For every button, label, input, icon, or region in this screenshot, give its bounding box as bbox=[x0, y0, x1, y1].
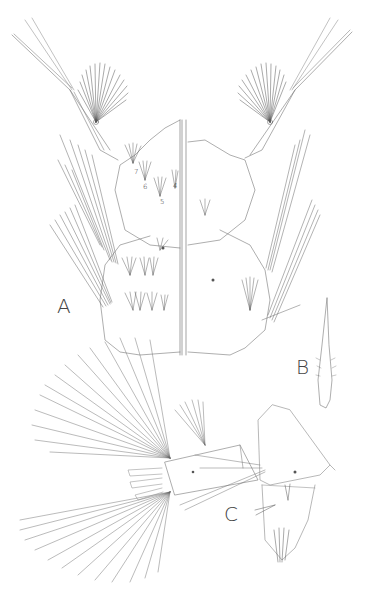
head-outline-right bbox=[188, 140, 255, 245]
midline bbox=[180, 120, 186, 355]
branched-setae bbox=[122, 143, 258, 310]
panel-c-drawing bbox=[20, 338, 335, 582]
seta-number-6: 6 bbox=[143, 183, 147, 191]
left-fan bbox=[78, 63, 128, 125]
lower-caudal-fan bbox=[20, 492, 170, 582]
right-fan bbox=[238, 63, 286, 125]
seta-number-5: 5 bbox=[160, 198, 164, 206]
left-lateral-setae bbox=[50, 135, 118, 307]
left-antenna bbox=[12, 18, 118, 160]
right-antenna bbox=[245, 18, 352, 158]
right-lateral-setae bbox=[262, 130, 320, 322]
anatomical-figure bbox=[0, 0, 365, 590]
panel-label-b: B bbox=[296, 355, 309, 379]
upper-caudal-fan bbox=[32, 338, 205, 458]
panel-b-drawing bbox=[316, 298, 336, 408]
anal-segment bbox=[165, 445, 258, 495]
panel-label-c: C bbox=[224, 502, 238, 526]
seta-number-7: 7 bbox=[134, 168, 138, 176]
seta-number-4: 4 bbox=[173, 182, 177, 190]
head-outline-left bbox=[115, 120, 180, 248]
panel-label-a: A bbox=[57, 294, 71, 318]
